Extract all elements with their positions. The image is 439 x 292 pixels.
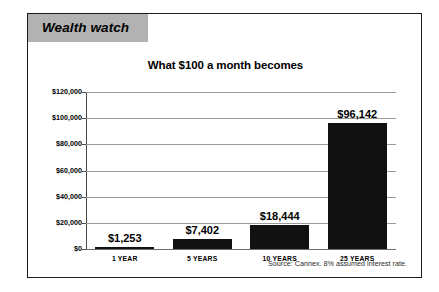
page-root: Wealth watch What $100 a month becomes $… bbox=[0, 0, 439, 292]
y-axis-tick-label: $0 bbox=[74, 244, 82, 253]
chart-plot-area: $0$20,000$40,000$60,000$80,000$100,000$1… bbox=[28, 14, 423, 279]
y-axis-tick: $80,000 bbox=[28, 139, 82, 149]
bar bbox=[250, 225, 309, 249]
y-axis-tick: $100,000 bbox=[28, 113, 82, 123]
y-axis-tick-label: $100,000 bbox=[52, 113, 82, 122]
y-axis-tick-mark bbox=[82, 249, 86, 250]
y-axis-tick-label: $40,000 bbox=[56, 192, 82, 201]
y-axis-tick-mark bbox=[82, 171, 86, 172]
bar-value-label: $18,444 bbox=[230, 210, 330, 222]
y-axis-tick: $60,000 bbox=[28, 166, 82, 176]
y-axis-tick-label: $120,000 bbox=[52, 87, 82, 96]
y-axis-tick-label: $60,000 bbox=[56, 166, 82, 175]
y-axis-tick: $0 bbox=[28, 244, 82, 254]
y-axis-tick-mark bbox=[82, 197, 86, 198]
wealth-watch-card: Wealth watch What $100 a month becomes $… bbox=[27, 13, 422, 278]
y-axis-tick-label: $20,000 bbox=[56, 218, 82, 227]
y-axis-tick: $20,000 bbox=[28, 218, 82, 228]
y-axis-tick-mark bbox=[82, 92, 86, 93]
y-axis-tick: $40,000 bbox=[28, 192, 82, 202]
bar bbox=[173, 239, 232, 249]
y-axis-tick-mark bbox=[82, 118, 86, 119]
y-axis-tick: $120,000 bbox=[28, 87, 82, 97]
bar bbox=[328, 123, 387, 249]
y-axis-tick-label: $80,000 bbox=[56, 139, 82, 148]
bar-value-label: $96,142 bbox=[307, 108, 407, 120]
bar-value-label: $7,402 bbox=[152, 224, 252, 236]
y-axis-tick-mark bbox=[82, 144, 86, 145]
y-axis-tick-mark bbox=[82, 223, 86, 224]
source-note: Source: Cannex. 8% assumed interest rate… bbox=[268, 259, 407, 268]
gridline bbox=[86, 92, 396, 93]
bar bbox=[95, 247, 154, 249]
